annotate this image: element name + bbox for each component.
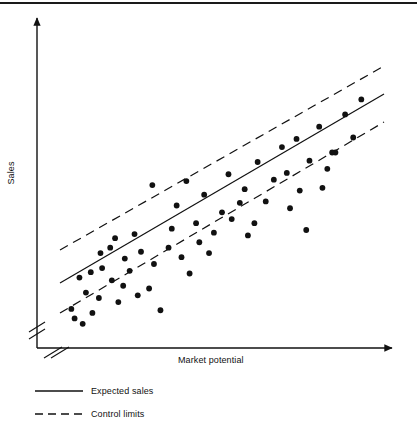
scatter-point (90, 310, 96, 316)
scatter-point (226, 171, 232, 177)
scatter-point (112, 235, 118, 241)
scatter-point (294, 136, 300, 142)
scatter-point (138, 249, 144, 255)
axis-lines (37, 18, 392, 348)
scatter-point (146, 286, 152, 292)
scatter-point (109, 277, 115, 283)
scatter-point (135, 292, 141, 298)
scatter-point (88, 269, 94, 275)
scatter-point (120, 283, 126, 289)
scatter-point (183, 178, 189, 184)
scatter-point (350, 135, 356, 141)
scatter-point (252, 220, 258, 226)
scatter-point (169, 226, 175, 232)
scatter-point (99, 265, 105, 271)
scatter-point (83, 290, 89, 296)
scatter-point (122, 256, 128, 262)
scatter-point (324, 166, 330, 172)
scatter-point (68, 306, 74, 312)
scatter-point (263, 199, 269, 205)
scatter-point (237, 200, 243, 206)
scatter-point (132, 231, 138, 237)
scatter-point (151, 261, 157, 267)
scatter-point (127, 268, 133, 274)
y-axis-title: Sales (6, 153, 16, 193)
scatter-point (229, 216, 235, 222)
scatter-point (297, 188, 303, 194)
scatter-point (77, 275, 83, 281)
expected-sales-line (60, 94, 384, 283)
upper-control-limit-line (60, 66, 384, 250)
scatter-point (174, 203, 180, 209)
scatter-point (287, 205, 293, 211)
scatter-point (72, 316, 78, 322)
scatter-point (196, 239, 202, 245)
scatter-point (342, 112, 348, 118)
scatter-point (358, 97, 364, 103)
scatter-point (211, 230, 217, 236)
scatter-point (98, 250, 104, 256)
legend (35, 391, 83, 414)
scatter-point (206, 250, 212, 256)
scatter-point (320, 185, 326, 191)
legend-label-expected-sales: Expected sales (91, 386, 153, 396)
x-axis-title: Market potential (178, 355, 244, 365)
scatter-point (193, 220, 199, 226)
scatter-point (187, 271, 193, 277)
scatter-point (329, 150, 335, 156)
scatter-point (166, 245, 172, 251)
scatter-point (316, 124, 322, 130)
scatter-point (255, 159, 261, 165)
scatter-point (271, 177, 277, 183)
scatter-point (96, 295, 102, 301)
scatter-point (80, 321, 86, 327)
scatter-point (158, 307, 164, 313)
scatter-point (303, 227, 309, 233)
scatter-point (279, 144, 285, 150)
scatter-point (219, 209, 225, 215)
chart-figure: Sales Market potential Expected sales Co… (0, 0, 417, 428)
scatter-point (107, 245, 113, 251)
scatter-point (242, 186, 248, 192)
scatter-point (245, 233, 251, 239)
scatter-point (284, 170, 290, 176)
scatter-point (149, 182, 155, 188)
scatter-point (179, 254, 185, 260)
scatter-point (201, 192, 207, 198)
scatter-point (115, 299, 121, 305)
legend-label-control-limits: Control limits (91, 409, 144, 419)
scatter-point (307, 158, 313, 164)
